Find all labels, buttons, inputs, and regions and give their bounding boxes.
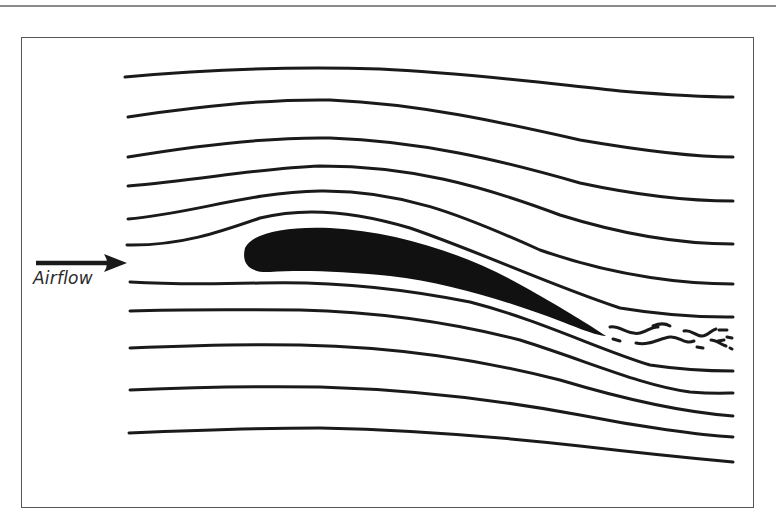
airflow-label: Airflow <box>33 268 93 288</box>
streamline <box>129 428 733 462</box>
lower-streamlines <box>129 282 733 462</box>
streamline <box>128 138 733 201</box>
streamline <box>130 310 733 394</box>
streamline <box>130 282 733 371</box>
streamline <box>125 68 733 97</box>
airflow-diagram <box>0 0 776 523</box>
figure: Airflow <box>0 0 776 523</box>
turbulent-wake <box>610 324 732 349</box>
